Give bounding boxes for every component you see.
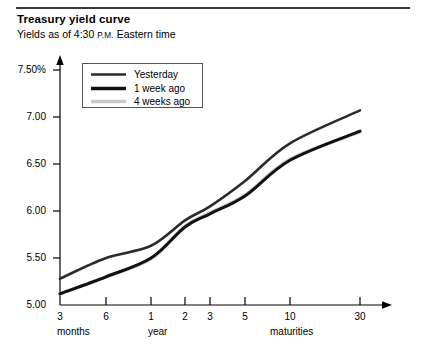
x-tick-label: 3 bbox=[40, 311, 80, 322]
y-tick-label: 7.50% bbox=[0, 64, 46, 75]
x-group-label-maturities: maturities bbox=[270, 326, 313, 337]
legend-item-1-week-ago: 1 week ago bbox=[90, 82, 185, 95]
y-tick-label: 7.00 bbox=[0, 111, 46, 122]
y-tick-label: 6.50 bbox=[0, 158, 46, 169]
chart-legend: Yesterday 1 week ago 4 weeks ago bbox=[82, 63, 203, 108]
legend-item-yesterday: Yesterday bbox=[90, 68, 178, 81]
y-tick-marks bbox=[53, 70, 60, 258]
series-1-week-ago bbox=[60, 131, 360, 294]
legend-swatch-icon bbox=[90, 71, 127, 78]
y-tick-label: 6.00 bbox=[0, 205, 46, 216]
x-tick-label: 30 bbox=[340, 311, 380, 322]
y-tick-label: 5.00 bbox=[0, 299, 46, 310]
chart-plot-area bbox=[0, 0, 426, 349]
x-group-label-year: year bbox=[148, 326, 167, 337]
legend-swatch-icon bbox=[90, 85, 127, 92]
y-axis-arrow-icon bbox=[56, 55, 63, 65]
x-tick-marks bbox=[106, 297, 360, 305]
x-tick-label: 5 bbox=[225, 311, 265, 322]
y-tick-label: 5.50 bbox=[0, 252, 46, 263]
x-axis-arrow-icon bbox=[382, 301, 392, 308]
x-tick-label: 3 bbox=[190, 311, 230, 322]
x-tick-label: 6 bbox=[86, 311, 126, 322]
series-yesterday bbox=[60, 110, 360, 278]
legend-label: Yesterday bbox=[134, 68, 178, 81]
legend-label: 1 week ago bbox=[134, 82, 185, 95]
x-group-label-months: months bbox=[57, 326, 90, 337]
chart-figure: Treasury yield curve Yields as of 4:30 P… bbox=[0, 0, 426, 349]
legend-label: 4 weeks ago bbox=[134, 95, 190, 108]
legend-swatch-icon bbox=[90, 98, 127, 105]
legend-item-4-weeks-ago: 4 weeks ago bbox=[90, 95, 190, 108]
x-tick-label: 10 bbox=[270, 311, 310, 322]
